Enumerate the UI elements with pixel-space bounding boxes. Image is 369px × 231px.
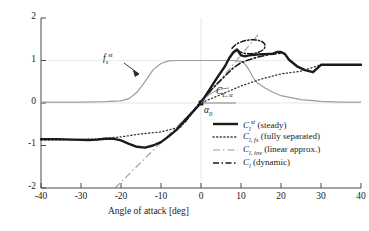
legend-label-linear-approx: Cl, inv (linear approx.)	[243, 144, 320, 156]
x-tick-label-20: 20	[267, 191, 295, 201]
fs-st-annotation: fsst	[103, 51, 113, 65]
curve-cl-inv	[115, 34, 259, 188]
x-tick-label-neg30: -30	[66, 191, 96, 201]
x-tick-label-neg20: -20	[106, 191, 136, 201]
y-tick-label-1: 1	[14, 54, 36, 64]
legend-label-fully-separated: Cl, fs (fully separated)	[243, 131, 320, 143]
x-tick-label-neg10: -10	[146, 191, 176, 201]
x-tick-label-40: 40	[347, 191, 369, 201]
cl-alpha-annotation: CL, α	[216, 86, 233, 98]
figure-container: 2 1 0 -1 -2 -40 -30 -20 -10 0 10 20 30 4…	[0, 0, 369, 231]
fs-st-arrow	[124, 63, 139, 76]
x-axis-title: Angle of attack [deg]	[108, 206, 189, 216]
legend-label-dynamic: Cl (dynamic)	[243, 157, 290, 169]
y-tick-label-2: 2	[14, 11, 36, 21]
x-tick-label-0: 0	[187, 191, 215, 201]
y-tick-label-neg2: -2	[12, 181, 36, 191]
y-tick-label-neg1: -1	[12, 138, 36, 148]
x-tick-label-30: 30	[307, 191, 335, 201]
x-tick-marks	[41, 183, 361, 188]
y-tick-marks	[41, 18, 46, 188]
x-tick-label-10: 10	[227, 191, 255, 201]
x-tick-label-neg40: -40	[26, 191, 56, 201]
alpha-zero-annotation: α0	[204, 105, 212, 117]
y-tick-label-0: 0	[14, 96, 36, 106]
legend-label-steady: Clst (steady)	[243, 118, 286, 132]
legend-sample-lines	[213, 124, 238, 163]
curve-cl-dynamic	[185, 53, 281, 122]
